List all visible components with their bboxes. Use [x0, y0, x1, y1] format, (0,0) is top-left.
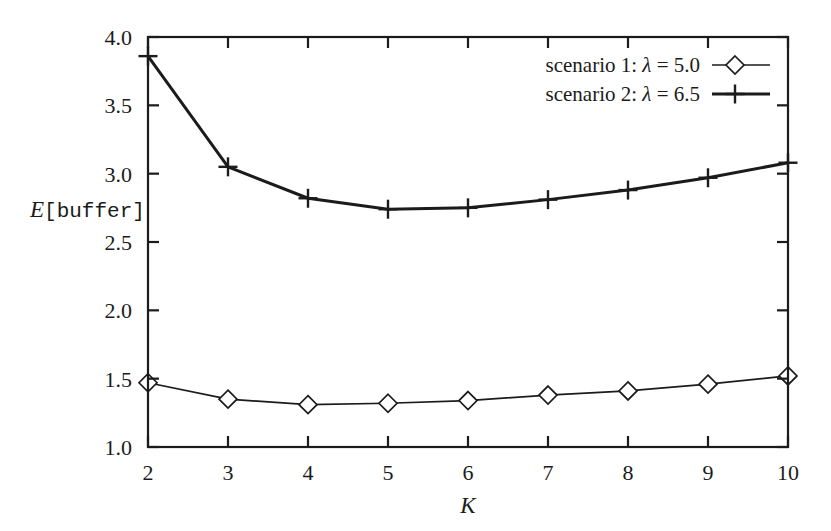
x-tick-label: 5 — [383, 460, 394, 485]
y-tick-label: 1.5 — [105, 367, 133, 392]
x-tick-label: 6 — [463, 460, 474, 485]
x-axis-title: K — [459, 493, 477, 518]
line-chart: 1.01.52.02.53.03.54.02345678910 E[buffer… — [0, 0, 831, 531]
y-tick-label: 2.0 — [105, 298, 133, 323]
y-axis-title: E[buffer] — [29, 197, 145, 223]
y-tick-label: 4.0 — [105, 25, 133, 50]
x-tick-label: 7 — [543, 460, 554, 485]
legend-label-2: scenario 2: λ = 6.5 — [546, 82, 701, 106]
y-tick-label: 3.0 — [105, 162, 133, 187]
x-tick-label: 3 — [223, 460, 234, 485]
x-tick-label: 2 — [143, 460, 154, 485]
y-tick-label: 2.5 — [105, 230, 133, 255]
x-tick-label: 8 — [623, 460, 634, 485]
chart-figure: 1.01.52.02.53.03.54.02345678910 E[buffer… — [0, 0, 831, 531]
y-tick-label: 1.0 — [105, 435, 133, 460]
x-tick-label: 10 — [777, 460, 799, 485]
legend-label-1: scenario 1: λ = 5.0 — [546, 53, 701, 77]
y-tick-label: 3.5 — [105, 93, 133, 118]
x-tick-label: 4 — [303, 460, 314, 485]
x-tick-label: 9 — [703, 460, 714, 485]
